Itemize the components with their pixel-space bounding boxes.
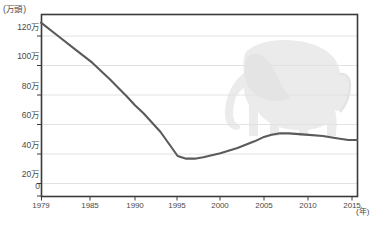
elephant-population-chart: (万頭) 0 20万 40万 60万 80万 100万 120万 1979 19… — [0, 0, 379, 226]
elephant-silhouette-icon — [225, 40, 350, 136]
plot-svg — [0, 0, 379, 226]
y-axis-ticks — [37, 36, 41, 196]
